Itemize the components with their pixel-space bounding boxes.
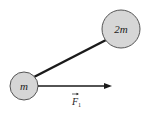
mass-m-label: m <box>20 80 28 92</box>
two-mass-diagram: 2m m F1 <box>0 0 149 115</box>
connecting-rod <box>34 40 106 77</box>
mass-2m-label: 2m <box>114 23 128 35</box>
force-label: F1 <box>71 96 81 108</box>
vector-arrow-head-icon <box>77 93 80 95</box>
force-arrowhead-icon <box>104 83 112 89</box>
